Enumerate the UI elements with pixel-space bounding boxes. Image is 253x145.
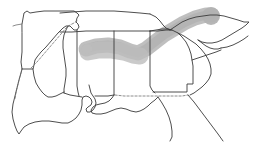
highlight-start-tip: [82, 44, 92, 54]
map-figure: [0, 0, 253, 145]
map-svg: [0, 0, 253, 145]
